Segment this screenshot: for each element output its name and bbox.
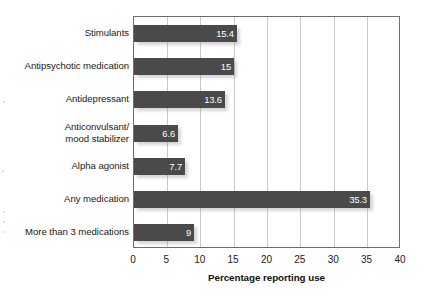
bar-value-label: 15 xyxy=(221,62,231,72)
bar-value-label: 6.6 xyxy=(162,129,175,139)
gridline xyxy=(334,17,335,247)
gridline xyxy=(234,17,235,247)
bar: 15.4 xyxy=(134,25,237,42)
x-tick-label: 30 xyxy=(328,254,339,266)
gridline xyxy=(200,17,201,247)
bar-chart-figure: StimulantsAntipsychotic medicationAntide… xyxy=(0,0,427,303)
scan-artifact xyxy=(3,101,5,103)
category-axis: StimulantsAntipsychotic medicationAntide… xyxy=(0,16,129,248)
x-tick-label: 25 xyxy=(294,254,305,266)
bar: 9 xyxy=(134,224,194,241)
bar-value-label: 15.4 xyxy=(216,29,234,39)
bar-value-label: 9 xyxy=(186,228,191,238)
scan-artifact xyxy=(3,221,5,223)
category-label: Antidepressant xyxy=(0,93,129,104)
category-label: Alpha agonist xyxy=(0,160,129,171)
category-label: Anticonvulsant/ mood stabilizer xyxy=(0,121,129,143)
x-tick-label: 35 xyxy=(361,254,372,266)
scan-artifact xyxy=(3,211,5,213)
bar: 35.3 xyxy=(134,191,370,208)
category-label: Stimulants xyxy=(0,27,129,38)
bar: 15 xyxy=(134,58,234,75)
x-tick-label: 15 xyxy=(228,254,239,266)
x-axis: Percentage reporting use 051015202530354… xyxy=(0,248,427,303)
x-tick-label: 0 xyxy=(130,254,136,266)
scan-artifact xyxy=(2,231,4,233)
category-label: Antipsychotic medication xyxy=(0,60,129,71)
bar-value-label: 13.6 xyxy=(204,95,222,105)
bar-value-label: 35.3 xyxy=(349,195,367,205)
scan-artifact xyxy=(2,170,4,172)
x-tick-label: 5 xyxy=(164,254,170,266)
x-tick-label: 40 xyxy=(394,254,405,266)
bar: 6.6 xyxy=(134,125,178,142)
gridline xyxy=(367,17,368,247)
x-tick-label: 20 xyxy=(261,254,272,266)
gridline xyxy=(300,17,301,247)
bar: 7.7 xyxy=(134,158,185,175)
gridline xyxy=(267,17,268,247)
category-label: More than 3 medications xyxy=(0,226,129,237)
x-axis-title: Percentage reporting use xyxy=(133,272,400,283)
bar-value-label: 7.7 xyxy=(169,162,182,172)
bar: 13.6 xyxy=(134,91,225,108)
x-tick-label: 10 xyxy=(194,254,205,266)
plot-area: 15.41513.66.67.735.39 xyxy=(133,16,400,248)
category-label: Any medication xyxy=(0,193,129,204)
